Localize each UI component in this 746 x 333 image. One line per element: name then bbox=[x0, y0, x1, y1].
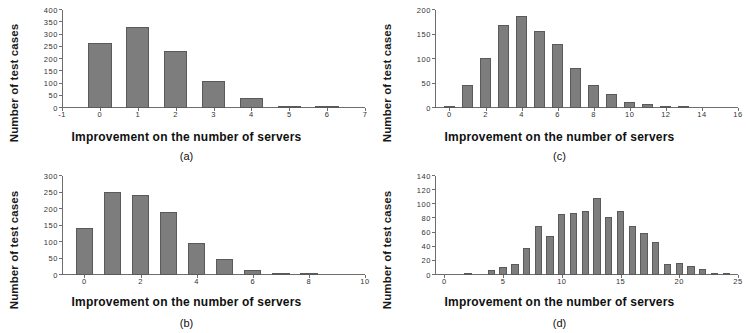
x-tick-mark bbox=[214, 108, 215, 111]
x-tick-mark bbox=[84, 275, 85, 278]
y-tick-mark bbox=[59, 95, 62, 96]
y-axis-line-a bbox=[62, 10, 63, 108]
x-axis-label-d: Improvement on the number of servers bbox=[373, 295, 746, 309]
x-tick-label: 15 bbox=[616, 278, 625, 286]
x-tick-mark bbox=[309, 275, 310, 278]
histogram-bar bbox=[570, 213, 577, 275]
y-tick-mark bbox=[59, 225, 62, 226]
x-tick-label: 2 bbox=[173, 111, 178, 119]
x-tick-label: 3 bbox=[211, 111, 216, 119]
y-tick-label: 100 bbox=[417, 55, 431, 63]
x-tick-mark bbox=[365, 275, 366, 278]
x-tick-mark bbox=[562, 275, 563, 278]
y-tick-mark bbox=[432, 274, 435, 275]
y-tick-mark bbox=[59, 58, 62, 59]
y-tick-mark bbox=[432, 34, 435, 35]
histogram-bar bbox=[711, 273, 718, 275]
histogram-bar bbox=[278, 106, 301, 108]
x-axis-label-b: Improvement on the number of servers bbox=[0, 295, 373, 309]
y-tick-mark bbox=[59, 83, 62, 84]
histogram-bar bbox=[723, 273, 730, 275]
y-tick-mark bbox=[432, 175, 435, 176]
x-tick-label: -1 bbox=[58, 111, 66, 119]
histogram-bar bbox=[499, 267, 506, 275]
histogram-bar bbox=[652, 242, 659, 275]
y-tick-label: 200 bbox=[417, 6, 431, 14]
y-axis-line-c bbox=[435, 10, 436, 108]
x-tick-label: 8 bbox=[307, 278, 312, 286]
x-tick-mark bbox=[594, 108, 595, 111]
histogram-bar bbox=[582, 211, 589, 275]
histogram-bar bbox=[546, 236, 553, 275]
y-tick-mark bbox=[432, 9, 435, 10]
x-tick-label: 4 bbox=[519, 111, 524, 119]
x-tick-label: 6 bbox=[555, 111, 560, 119]
plot-area-wrap-b: 0501001502002503000246810 bbox=[24, 174, 367, 289]
histogram-bar bbox=[606, 94, 617, 108]
x-tick-mark bbox=[141, 275, 142, 278]
x-tick-mark bbox=[679, 275, 680, 278]
x-tick-mark bbox=[197, 275, 198, 278]
x-tick-label: 0 bbox=[82, 278, 87, 286]
y-tick-label: 80 bbox=[421, 215, 431, 223]
x-tick-mark bbox=[62, 108, 63, 111]
x-tick-mark bbox=[176, 108, 177, 111]
x-tick-label: 4 bbox=[249, 111, 254, 119]
x-tick-label: 6 bbox=[325, 111, 330, 119]
histogram-bar bbox=[76, 228, 93, 275]
panel-c: Number of test cases 0501001502000246810… bbox=[373, 0, 746, 166]
x-tick-label: 20 bbox=[675, 278, 684, 286]
y-tick-mark bbox=[59, 241, 62, 242]
y-tick-label: 350 bbox=[44, 19, 58, 27]
histogram-bar bbox=[272, 273, 289, 275]
x-tick-mark bbox=[138, 108, 139, 111]
x-tick-mark bbox=[365, 108, 366, 111]
y-tick-mark bbox=[59, 258, 62, 259]
y-tick-label: 60 bbox=[421, 229, 431, 237]
y-tick-mark bbox=[59, 70, 62, 71]
x-tick-label: 5 bbox=[501, 278, 506, 286]
x-tick-label: 5 bbox=[287, 111, 292, 119]
y-tick-mark bbox=[432, 83, 435, 84]
x-tick-mark bbox=[503, 275, 504, 278]
histogram-bar bbox=[104, 192, 121, 275]
x-tick-mark bbox=[522, 108, 523, 111]
histogram-bar bbox=[534, 31, 545, 108]
panel-caption-a: (a) bbox=[0, 150, 373, 162]
x-tick-label: 25 bbox=[733, 278, 742, 286]
x-tick-mark bbox=[253, 275, 254, 278]
histogram-bar bbox=[678, 106, 689, 108]
y-tick-mark bbox=[59, 9, 62, 10]
histogram-bar bbox=[523, 248, 530, 275]
x-axis-label-a: Improvement on the number of servers bbox=[0, 130, 373, 144]
histogram-bar bbox=[699, 269, 706, 275]
y-tick-mark bbox=[59, 34, 62, 35]
y-tick-mark bbox=[432, 107, 435, 108]
histogram-bar bbox=[480, 58, 491, 108]
y-tick-label: 250 bbox=[44, 43, 58, 51]
plot-a: 050100150200250300350400-101234567 bbox=[62, 10, 365, 108]
y-tick-label: 300 bbox=[44, 31, 58, 39]
plot-area-wrap-a: 050100150200250300350400-101234567 bbox=[24, 8, 367, 122]
histogram-bar bbox=[132, 195, 149, 275]
panel-caption-d: (d) bbox=[373, 317, 746, 329]
histogram-bar bbox=[570, 68, 581, 108]
histogram-bar bbox=[126, 27, 149, 108]
y-tick-label: 150 bbox=[417, 31, 431, 39]
y-tick-label: 100 bbox=[44, 80, 58, 88]
y-tick-label: 140 bbox=[417, 172, 431, 180]
histogram-bar bbox=[624, 102, 635, 108]
x-tick-label: 0 bbox=[98, 111, 103, 119]
y-tick-mark bbox=[59, 208, 62, 209]
y-tick-label: 50 bbox=[48, 92, 58, 100]
histogram-bar bbox=[188, 243, 205, 275]
plot-c: 0501001502000246810121416 bbox=[435, 10, 738, 108]
histogram-bar bbox=[660, 106, 671, 108]
x-tick-label: 4 bbox=[194, 278, 199, 286]
x-tick-mark bbox=[444, 275, 445, 278]
histogram-bar bbox=[88, 43, 111, 108]
x-tick-label: 10 bbox=[625, 111, 634, 119]
y-tick-label: 200 bbox=[44, 205, 58, 213]
x-tick-label: 1 bbox=[135, 111, 140, 119]
x-tick-label: 12 bbox=[661, 111, 670, 119]
